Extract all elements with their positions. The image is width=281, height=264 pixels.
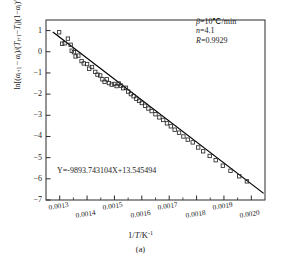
figure-caption: (a) (0, 245, 281, 254)
regression-equation: Y=-9893.743104X+13.545494 (57, 166, 156, 175)
y-axis-label: ln[(αi+1 − αi)/(Ti+1−Ti)(1−αi)n] (12, 0, 22, 123)
data-point-marker (154, 113, 157, 116)
data-point-marker (201, 150, 204, 153)
data-point-marker (182, 135, 185, 138)
data-point-marker (57, 31, 60, 34)
data-point-marker (80, 59, 83, 62)
data-point-marker (158, 116, 161, 119)
annotation-r: R=0.9929 (196, 36, 236, 45)
data-point-marker (169, 125, 172, 128)
x-axis-title-exponent: -1 (148, 230, 153, 236)
data-point-marker (165, 122, 168, 125)
data-point-marker (186, 138, 189, 141)
y-axis-tick-label: −5 (26, 153, 42, 162)
beta-value: =10℃/min (200, 17, 236, 26)
data-point-marker (161, 118, 164, 121)
y-axis-tick-label: −6 (26, 174, 42, 183)
scatter-plot (0, 0, 281, 264)
data-point-marker (177, 131, 180, 134)
x-axis-title: 1/T/K-1 (0, 230, 281, 240)
y-axis-tick-label: −2 (26, 89, 42, 98)
annotation-beta: β=10℃/min (196, 17, 236, 26)
data-point-marker (197, 146, 200, 149)
r-value: =0.9929 (201, 36, 228, 45)
annotation-block: β=10℃/min n=4.1 R=0.9929 (196, 17, 236, 45)
y-axis-tick-label: −3 (26, 110, 42, 119)
figure-panel-a: ln[(αi+1 − αi)/(Ti+1−Ti)(1−αi)n] 10−1−2−… (0, 0, 281, 264)
data-point-marker (66, 37, 69, 40)
x-axis-title-unit: /K (139, 230, 148, 240)
y-axis-tick-label: −4 (26, 131, 42, 140)
y-axis-tick-label: 0 (26, 47, 42, 56)
annotation-n: n=4.1 (196, 26, 236, 35)
data-point-marker (221, 164, 224, 167)
n-value: =4.1 (200, 26, 215, 35)
x-axis-title-prefix: 1/ (128, 230, 135, 240)
data-point-marker (191, 141, 194, 144)
data-point-marker (208, 154, 211, 157)
y-axis-tick-label: −1 (26, 68, 42, 77)
y-axis-tick-label: −7 (26, 195, 42, 204)
data-point-marker (214, 158, 217, 161)
data-point-marker (173, 128, 176, 131)
y-axis-tick-label: 1 (26, 26, 42, 35)
